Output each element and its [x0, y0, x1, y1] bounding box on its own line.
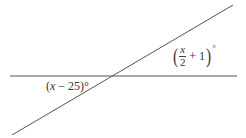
fraction-numerator: x	[179, 44, 186, 57]
operator: + 1	[189, 49, 205, 63]
diagram-canvas	[0, 0, 246, 138]
paren-open: (	[173, 45, 178, 67]
fraction: x2	[179, 44, 186, 68]
fraction-denominator: 2	[179, 57, 186, 69]
operator: −	[55, 79, 68, 93]
degree-symbol: °	[212, 43, 216, 53]
paren-close: )	[206, 45, 211, 67]
degree-suffix: )°	[80, 79, 89, 93]
angle-label-left: (x − 25)°	[46, 80, 89, 92]
angle-label-right: (x2 + 1)°	[172, 44, 216, 68]
constant: 25	[68, 79, 80, 93]
transversal-line	[12, 5, 233, 135]
